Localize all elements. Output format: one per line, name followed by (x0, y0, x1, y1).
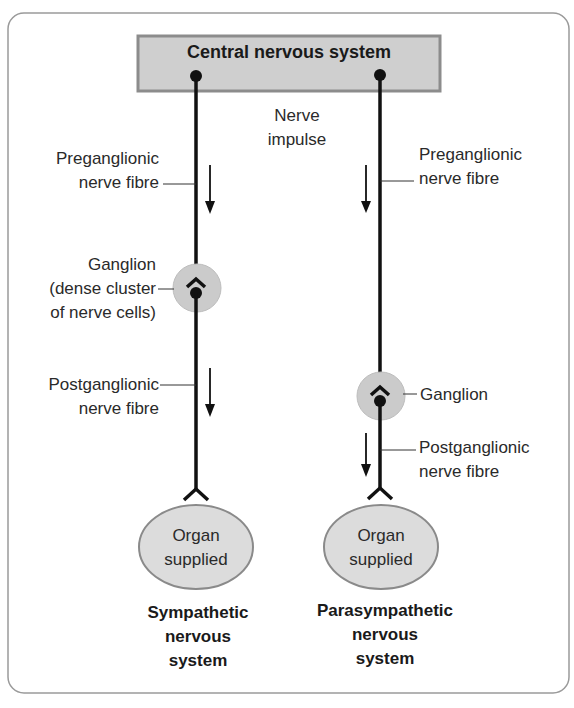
sympathetic-pre-label-2: nerve fibre (79, 173, 159, 192)
cns-box: Central nervous system (138, 36, 440, 91)
parasympathetic-cns-node-icon (374, 69, 386, 81)
parasympathetic-pre-label-1: Preganglionic (419, 145, 523, 164)
parasympathetic-system-label-2: nervous (352, 625, 418, 644)
sympathetic-ganglion-label-3: of nerve cells) (50, 303, 156, 322)
nerve-impulse-label-2: impulse (268, 130, 327, 149)
sympathetic-ganglion-label-2: (dense cluster (49, 279, 156, 298)
nervous-system-diagram: Central nervous system Preganglionic ner… (0, 0, 574, 708)
parasympathetic-post-label-2: nerve fibre (419, 462, 499, 481)
parasympathetic-organ-label-1: Organ (357, 526, 404, 545)
sympathetic-ganglion-label-1: Ganglion (88, 255, 156, 274)
parasympathetic-system-label-1: Parasympathetic (317, 601, 453, 620)
parasympathetic-organ-label-2: supplied (349, 550, 412, 569)
sympathetic-system-label-2: nervous (165, 627, 231, 646)
sympathetic-cns-node-icon (190, 70, 202, 82)
parasympathetic-post-label-1: Postganglionic (419, 438, 530, 457)
parasympathetic-organ (324, 505, 438, 589)
parasympathetic-system-label-3: system (356, 649, 415, 668)
nerve-impulse-label-1: Nerve (274, 106, 319, 125)
sympathetic-post-label-1: Postganglionic (48, 375, 159, 394)
cns-label: Central nervous system (187, 42, 391, 62)
sympathetic-system-label-1: Sympathetic (147, 603, 248, 622)
parasympathetic-ganglion-label-1: Ganglion (420, 385, 488, 404)
sympathetic-organ-label-1: Organ (172, 526, 219, 545)
sympathetic-organ-label-2: supplied (164, 550, 227, 569)
sympathetic-pre-label-1: Preganglionic (56, 149, 160, 168)
sympathetic-organ (139, 505, 253, 589)
sympathetic-post-label-2: nerve fibre (79, 399, 159, 418)
parasympathetic-pre-label-2: nerve fibre (419, 169, 499, 188)
sympathetic-system-label-3: system (169, 651, 228, 670)
